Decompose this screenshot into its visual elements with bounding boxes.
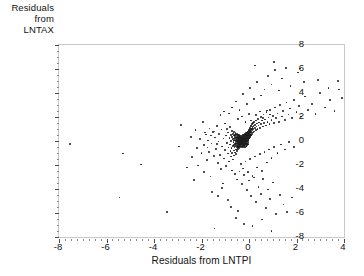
data-point xyxy=(319,92,321,94)
data-point xyxy=(232,159,234,161)
x-tick-label: -8 xyxy=(45,242,71,252)
y-axis-label-line-1: Residuals xyxy=(0,2,54,13)
data-point xyxy=(261,219,263,221)
data-point xyxy=(266,111,268,113)
data-point xyxy=(259,153,261,155)
data-point xyxy=(224,123,226,125)
data-point xyxy=(205,134,207,136)
data-point xyxy=(257,118,259,120)
data-point xyxy=(228,147,230,149)
data-point xyxy=(272,115,274,117)
data-point xyxy=(225,135,227,137)
y-axis-label: Residuals from LNTAX xyxy=(0,2,54,36)
data-point xyxy=(231,170,233,172)
x-tick-label: -2 xyxy=(188,242,214,252)
y-tick-major xyxy=(55,45,59,46)
data-point xyxy=(253,98,255,100)
data-point xyxy=(317,79,319,81)
y-tick-label: 8 xyxy=(286,39,304,49)
data-point xyxy=(140,164,142,166)
y-tick-minor xyxy=(57,51,59,52)
data-point xyxy=(265,125,267,127)
y-tick-minor xyxy=(57,57,59,58)
data-point xyxy=(214,228,216,230)
data-point xyxy=(307,109,309,111)
data-point xyxy=(291,197,293,199)
data-point xyxy=(180,124,182,126)
data-point xyxy=(282,110,284,112)
data-point xyxy=(289,108,291,110)
data-point xyxy=(341,97,343,99)
data-point xyxy=(197,165,199,167)
data-point xyxy=(220,114,222,116)
data-point xyxy=(216,143,218,145)
y-tick-minor xyxy=(57,201,59,202)
data-point xyxy=(268,117,270,119)
data-point xyxy=(69,143,71,145)
data-point xyxy=(259,111,261,113)
data-point xyxy=(277,113,279,115)
x-tick-minor xyxy=(89,239,90,241)
data-point xyxy=(228,113,230,115)
data-point xyxy=(193,179,195,181)
data-point xyxy=(230,140,232,142)
y-tick-minor xyxy=(57,111,59,112)
data-point xyxy=(225,165,227,167)
data-point xyxy=(260,116,262,118)
data-point xyxy=(203,171,205,173)
data-point xyxy=(216,125,218,127)
y-tick-minor xyxy=(57,135,59,136)
y-tick-minor xyxy=(57,177,59,178)
x-tick-minor xyxy=(213,239,214,241)
data-point xyxy=(328,87,330,89)
data-point xyxy=(230,206,232,208)
data-point xyxy=(220,168,222,170)
data-point xyxy=(206,159,208,161)
x-tick-label: -4 xyxy=(140,242,166,252)
data-point xyxy=(274,107,276,109)
data-point xyxy=(214,131,216,133)
x-axis-label: Residuals from LNTPI xyxy=(58,255,345,266)
x-tick-minor xyxy=(124,239,125,241)
data-point xyxy=(264,89,266,91)
data-point xyxy=(267,189,269,191)
data-point xyxy=(248,113,250,115)
data-point xyxy=(210,176,212,178)
data-point xyxy=(261,170,263,172)
y-tick-major xyxy=(55,213,59,214)
data-point xyxy=(260,123,262,125)
data-point xyxy=(255,114,257,116)
data-point xyxy=(218,141,220,143)
x-tick-minor xyxy=(95,239,96,241)
y-tick-minor xyxy=(57,87,59,88)
data-point xyxy=(245,161,247,163)
data-point xyxy=(221,187,223,189)
x-tick-minor xyxy=(178,239,179,241)
data-point xyxy=(334,110,336,112)
x-tick-minor xyxy=(142,239,143,241)
data-point xyxy=(263,114,265,116)
data-point xyxy=(229,144,231,146)
x-tick-minor xyxy=(65,239,66,241)
data-point xyxy=(255,120,257,122)
data-point xyxy=(221,129,223,131)
data-point xyxy=(208,151,210,153)
data-point xyxy=(260,95,262,97)
data-point xyxy=(337,80,339,82)
data-point xyxy=(202,121,204,123)
data-point xyxy=(269,114,271,116)
data-point xyxy=(215,148,217,150)
data-point xyxy=(235,153,237,155)
data-point xyxy=(293,99,295,101)
y-tick-label: -6 xyxy=(286,207,304,217)
data-point xyxy=(329,99,331,101)
data-point xyxy=(338,89,340,91)
data-point xyxy=(242,168,244,170)
data-point xyxy=(209,128,211,130)
data-point xyxy=(260,193,262,195)
data-point xyxy=(254,65,256,67)
y-tick-label: -8 xyxy=(286,231,304,241)
data-point xyxy=(190,136,192,138)
data-point xyxy=(269,198,271,200)
x-tick-minor xyxy=(273,239,274,241)
